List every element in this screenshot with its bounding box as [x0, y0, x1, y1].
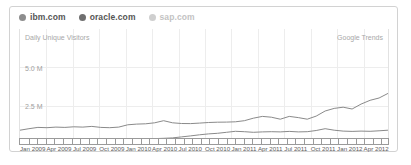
- axis-tick: [330, 139, 331, 144]
- axis-tick: [54, 139, 55, 144]
- x-axis-tick-label: Jan 2011: [231, 146, 256, 152]
- axis-tick: [235, 139, 236, 144]
- chart-legend: ibm.com oracle.com sap.com: [10, 7, 397, 28]
- axis-tick: [115, 139, 116, 144]
- x-axis-tick-band: [19, 138, 389, 145]
- axis-tick: [132, 139, 133, 144]
- legend-label-oracle: oracle.com: [90, 13, 136, 22]
- plot-area: Daily Unique Visitors Google Trends 5.0 …: [19, 29, 389, 144]
- axis-tick: [106, 139, 107, 144]
- axis-tick: [184, 139, 185, 144]
- axis-tick: [347, 139, 348, 144]
- legend-dot-ibm: [19, 14, 26, 21]
- axis-tick: [97, 139, 98, 144]
- x-axis-tick-label: Oct 2011: [311, 146, 336, 152]
- x-axis-tick-label: Jan 2009: [20, 146, 45, 152]
- x-axis-tick-label: Jan 2012: [337, 146, 362, 152]
- axis-tick: [287, 139, 288, 144]
- axis-tick: [373, 139, 374, 144]
- legend-dot-oracle: [79, 14, 86, 21]
- series-line-ibm-com: [20, 93, 388, 130]
- axis-tick: [270, 139, 271, 144]
- axis-tick: [252, 139, 253, 144]
- axis-tick: [304, 139, 305, 144]
- axis-tick: [201, 139, 202, 144]
- axis-tick: [261, 139, 262, 144]
- x-axis-tick-label: Apr 2010: [152, 146, 177, 152]
- axis-tick: [356, 139, 357, 144]
- axis-tick: [295, 139, 296, 144]
- axis-tick: [313, 139, 314, 144]
- axis-tick: [63, 139, 64, 144]
- axis-tick: [244, 139, 245, 144]
- axis-tick: [209, 139, 210, 144]
- axis-tick: [227, 139, 228, 144]
- axis-tick: [37, 139, 38, 144]
- axis-tick: [80, 139, 81, 144]
- axis-tick: [381, 139, 382, 144]
- screenshot-root: ibm.com oracle.com sap.com Daily Unique …: [0, 0, 411, 165]
- x-axis-labels: Jan 2009Apr 2009Jul 2009Oct 2009Jan 2010…: [19, 146, 389, 156]
- axis-tick: [321, 139, 322, 144]
- axis-tick: [123, 139, 124, 144]
- series-lines: [20, 29, 388, 144]
- axis-tick: [72, 139, 73, 144]
- axis-tick: [364, 139, 365, 144]
- legend-dot-sap: [149, 14, 156, 21]
- x-axis-tick-label: Jul 2011: [284, 146, 307, 152]
- legend-item-ibm[interactable]: ibm.com: [19, 13, 66, 22]
- x-axis-tick-label: Oct 2009: [99, 146, 124, 152]
- axis-tick: [89, 139, 90, 144]
- axis-tick: [338, 139, 339, 144]
- x-axis-tick-label: Oct 2010: [205, 146, 230, 152]
- trends-chart-widget: ibm.com oracle.com sap.com Daily Unique …: [9, 6, 398, 152]
- x-axis-tick-label: Jan 2010: [126, 146, 151, 152]
- x-axis-tick-label: Apr 2009: [46, 146, 71, 152]
- axis-tick: [149, 139, 150, 144]
- axis-tick: [218, 139, 219, 144]
- legend-item-sap[interactable]: sap.com: [149, 13, 195, 22]
- axis-tick: [175, 139, 176, 144]
- axis-tick: [46, 139, 47, 144]
- x-axis-tick-label: Apr 2011: [258, 146, 283, 152]
- axis-tick: [158, 139, 159, 144]
- legend-label-sap: sap.com: [160, 13, 195, 22]
- legend-label-ibm: ibm.com: [30, 13, 66, 22]
- x-axis-tick-label: Apr 2012: [364, 146, 389, 152]
- axis-tick: [192, 139, 193, 144]
- axis-tick: [166, 139, 167, 144]
- x-axis-tick-label: Jul 2009: [73, 146, 96, 152]
- x-axis-tick-label: Jul 2010: [179, 146, 202, 152]
- legend-item-oracle[interactable]: oracle.com: [79, 13, 136, 22]
- axis-tick: [141, 139, 142, 144]
- axis-tick: [278, 139, 279, 144]
- axis-tick: [29, 139, 30, 144]
